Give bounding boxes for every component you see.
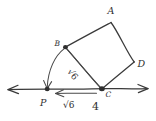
- side-a-b: [65, 23, 111, 48]
- label-diagonal-bc-length: √6: [65, 67, 80, 82]
- label-segment-pc-length: √6: [63, 100, 75, 110]
- vertex-dot-b: [63, 45, 68, 49]
- side-d-a: [111, 23, 134, 63]
- number-line: [8, 85, 148, 94]
- vertex-dot-c: [99, 86, 105, 91]
- sketch-canvas: A B D C P 4 √6 √6: [0, 0, 156, 121]
- side-c-d: [102, 62, 134, 89]
- measure-arrow-pc: [56, 90, 97, 97]
- geometry-diagram: A B D C P 4 √6 √6: [0, 0, 156, 121]
- label-vertex-d: D: [137, 58, 146, 69]
- label-vertex-a: A: [107, 5, 115, 16]
- number-line-shaft: [8, 89, 148, 90]
- arc-path: [47, 49, 64, 88]
- vertex-dot-p: [45, 87, 50, 91]
- label-vertex-b: B: [54, 39, 61, 48]
- label-vertex-c: C: [106, 90, 112, 99]
- label-point-p: P: [39, 97, 47, 108]
- label-side-measure-4: 4: [92, 100, 99, 113]
- arc-b-to-p: [44, 49, 64, 89]
